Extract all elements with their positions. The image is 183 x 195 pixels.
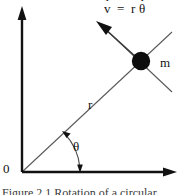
velocity-equation: v = r θ xyxy=(104,2,146,15)
radius-label: r xyxy=(88,98,92,111)
equation-token-2: r xyxy=(131,2,136,15)
figure-caption: Figure 2.1 Rotation of a circular xyxy=(2,186,183,195)
y-axis-arrowhead-icon xyxy=(18,6,27,20)
angle-arc-arrowhead-upper xyxy=(62,131,71,138)
origin-label: 0 xyxy=(3,162,10,175)
point-mass-dot xyxy=(132,52,150,70)
equation-token-3: θ xyxy=(139,2,146,15)
radius-line xyxy=(22,32,172,172)
x-axis-arrowhead-icon xyxy=(163,168,177,177)
equation-token-0: v xyxy=(104,2,111,15)
velocity-vector-shaft xyxy=(104,28,136,57)
equation-token-1: = xyxy=(117,2,125,15)
mass-label: m xyxy=(160,56,170,69)
angle-label: θ xyxy=(73,140,79,153)
figure-container: 0 r θ m v = r θ Figure 2.1 Rotation of a… xyxy=(0,0,183,195)
